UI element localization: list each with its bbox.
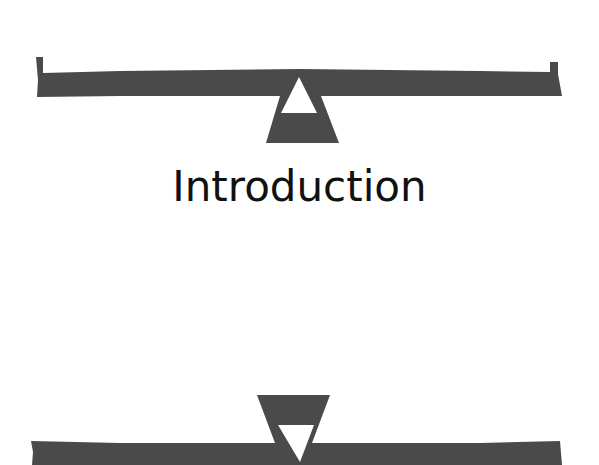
page: Introduction [0,0,599,465]
decorative-ornaments [0,0,599,465]
bottom-balance-scale-icon [31,395,562,465]
top-balance-scale-icon [36,57,562,143]
page-title: Introduction [0,162,599,212]
